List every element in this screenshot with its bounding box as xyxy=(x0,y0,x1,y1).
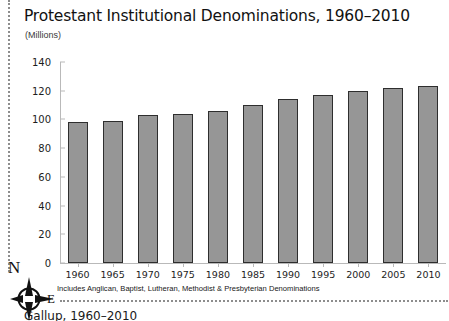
x-axis-tick-label: 1980 xyxy=(206,269,230,280)
y-axis-tick-label: 100 xyxy=(32,114,60,125)
y-axis-tick-label: 140 xyxy=(32,57,60,68)
x-axis-tick-mark xyxy=(148,263,149,267)
y-axis-tick-label: 20 xyxy=(38,229,60,240)
y-axis-tick-mark xyxy=(60,176,65,177)
x-axis-tick-mark xyxy=(78,263,79,267)
chart-bar xyxy=(103,121,123,263)
x-axis-tick-label: 2000 xyxy=(346,269,370,280)
left-page-border-rule xyxy=(8,0,10,272)
x-axis-tick-mark xyxy=(323,263,324,267)
y-axis-tick-mark xyxy=(60,62,65,63)
chart-plot-area: 0204060801001201401960196519701975198019… xyxy=(60,62,446,263)
x-axis-tick-mark xyxy=(253,263,254,267)
chart-subtitle-units: (Millions) xyxy=(25,30,61,40)
x-axis-tick-label: 2005 xyxy=(381,269,405,280)
x-axis-tick-mark xyxy=(358,263,359,267)
x-axis-tick-mark xyxy=(113,263,114,267)
chart-bar xyxy=(68,122,88,263)
chart-footnote: Includes Anglican, Baptist, Lutheran, Me… xyxy=(57,284,320,293)
y-axis-tick-label: 80 xyxy=(38,143,60,154)
x-axis-tick-label: 1965 xyxy=(101,269,125,280)
x-axis-tick-mark xyxy=(288,263,289,267)
y-axis-tick-mark xyxy=(60,148,65,149)
x-axis-tick-mark xyxy=(428,263,429,267)
bottom-page-border-rule xyxy=(60,300,448,302)
chart-bar xyxy=(243,105,263,263)
x-axis-tick-label: 1975 xyxy=(171,269,195,280)
x-axis-tick-label: 1995 xyxy=(311,269,335,280)
compass-north-label: N xyxy=(8,258,20,278)
y-axis-tick-mark xyxy=(60,234,65,235)
chart-bar xyxy=(138,115,158,263)
y-axis-tick-mark xyxy=(60,90,65,91)
y-axis-tick-mark xyxy=(60,119,65,120)
x-axis-tick-label: 1990 xyxy=(276,269,300,280)
y-axis-tick-label: 60 xyxy=(38,171,60,182)
x-axis-tick-mark xyxy=(393,263,394,267)
x-axis-tick-mark xyxy=(183,263,184,267)
chart-bar xyxy=(278,99,298,263)
x-axis-tick-label: 1985 xyxy=(241,269,265,280)
chart-title: Protestant Institutional Denominations, … xyxy=(24,7,410,25)
y-axis-tick-label: 120 xyxy=(32,85,60,96)
chart-bar xyxy=(173,114,193,263)
chart-bar xyxy=(348,91,368,263)
chart-bar xyxy=(383,88,403,263)
chart-bar xyxy=(418,86,438,263)
chart-bar xyxy=(313,95,333,263)
y-axis-tick-mark xyxy=(60,205,65,206)
x-axis-tick-label: 1970 xyxy=(136,269,160,280)
chart-bar xyxy=(208,111,228,263)
x-axis-tick-label: 1960 xyxy=(65,269,89,280)
x-axis-tick-mark xyxy=(218,263,219,267)
y-axis-tick-label: 40 xyxy=(38,200,60,211)
source-line: Gallup, 1960–2010 xyxy=(24,309,137,321)
x-axis-tick-label: 2010 xyxy=(416,269,440,280)
